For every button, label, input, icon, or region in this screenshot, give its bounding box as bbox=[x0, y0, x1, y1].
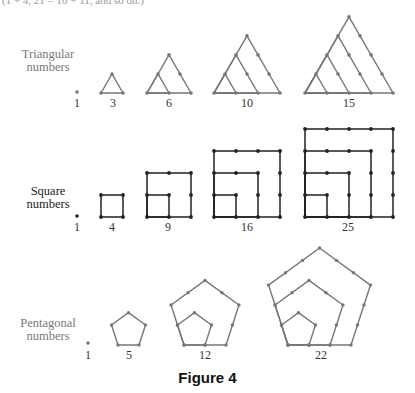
triangular-figure-15-dot bbox=[325, 91, 329, 95]
pentagonal-label-line2: numbers bbox=[14, 330, 82, 343]
pentagonal-figure-12-dot bbox=[231, 323, 234, 326]
square-figure-25-dot bbox=[369, 149, 373, 153]
pentagonal-figure-5-edge bbox=[112, 313, 129, 325]
square-figure-9-dot bbox=[145, 193, 149, 197]
square-figure-16-dot bbox=[212, 193, 216, 197]
pentagonal-figure-12-dot bbox=[203, 279, 206, 282]
square-label-line2: numbers bbox=[18, 198, 78, 211]
pentagonal-figure-22-edge bbox=[299, 313, 316, 325]
pentagonal-figure-22-dot bbox=[314, 323, 317, 326]
pentagonal-label: Pentagonal numbers bbox=[14, 317, 82, 343]
triangular-figure-15-dot bbox=[314, 72, 318, 76]
pentagonal-figure-22-edge bbox=[269, 248, 320, 285]
triangular-figure-10-edge bbox=[247, 36, 280, 93]
triangular-figure-10-dot bbox=[256, 53, 260, 57]
pentagonal-figure-22-dot bbox=[362, 303, 365, 306]
square-figure-25-dot bbox=[347, 171, 351, 175]
pentagonal-figure-22-dot bbox=[301, 259, 304, 262]
pentagonal-figure-5-edge bbox=[139, 325, 145, 345]
triangular-figure-15-dot bbox=[347, 15, 351, 19]
pentagonal-figure-22-edge bbox=[269, 285, 288, 345]
pentagonal-figure-22-dot bbox=[328, 343, 331, 346]
square-figure-9-dot bbox=[167, 193, 171, 197]
triangular-value-1: 1 bbox=[74, 96, 80, 111]
square-figure-25-dot bbox=[325, 149, 329, 153]
square-figure-25-dot bbox=[391, 193, 395, 197]
square-figure-25-dot bbox=[347, 127, 351, 131]
square-label: Square numbers bbox=[18, 185, 78, 211]
triangular-figure-10-dot bbox=[256, 91, 260, 95]
pentagonal-figure-5-edge bbox=[129, 313, 146, 325]
pentagonal-figure-5-edge bbox=[112, 325, 118, 345]
triangular-figure-10-dot bbox=[234, 91, 238, 95]
triangular-figure-6-dot bbox=[167, 53, 171, 57]
triangular-figure-15-dot bbox=[303, 91, 307, 95]
pentagonal-figure-22-dot bbox=[273, 303, 276, 306]
triangular-figure-15-dot bbox=[369, 91, 373, 95]
triangular-figure-15-dot bbox=[369, 53, 373, 57]
triangular-figure-3-dot bbox=[110, 72, 114, 76]
pentagonal-figure-22-dot bbox=[369, 283, 372, 286]
square-figure-25-dot bbox=[347, 215, 351, 219]
square-figure-16-dot bbox=[234, 171, 238, 175]
triangular-value-6: 6 bbox=[166, 96, 172, 111]
triangular-figure-15-dot bbox=[325, 53, 329, 57]
square-figure-25-dot bbox=[369, 127, 373, 131]
triangular-figure-10-dot bbox=[223, 72, 227, 76]
pentagonal-value-12: 12 bbox=[199, 348, 211, 363]
square-figure-16-dot bbox=[256, 193, 260, 197]
pentagonal-figure-22-dot bbox=[307, 279, 310, 282]
square-value-25: 25 bbox=[342, 220, 354, 235]
pentagonal-figure-22-dot bbox=[280, 323, 283, 326]
pentagonal-figure-5-dot bbox=[144, 323, 147, 326]
square-figure-25-dot bbox=[325, 127, 329, 131]
pentagonal-figure-22-dot bbox=[352, 271, 355, 274]
triangular-figure-15-dot bbox=[336, 72, 340, 76]
pentagonal-figure-5-dot bbox=[127, 311, 130, 314]
pentagonal-figure-22-dot bbox=[324, 291, 327, 294]
triangular-figure-3-edge bbox=[112, 74, 123, 93]
triangular-figure-15-dot bbox=[391, 91, 395, 95]
square-figure-4-dot bbox=[121, 215, 125, 219]
triangular-figure-10-dot bbox=[267, 72, 271, 76]
square-figure-16-dot bbox=[234, 149, 238, 153]
square-figure-25-dot bbox=[303, 127, 307, 131]
square-figure-25-dot bbox=[347, 193, 351, 197]
square-figure-9-dot bbox=[189, 193, 193, 197]
square-figure-25-dot bbox=[347, 149, 351, 153]
pentagonal-figure-12-dot bbox=[210, 323, 213, 326]
pentagonal-figure-22-dot bbox=[341, 303, 344, 306]
square-figure-25-dot bbox=[303, 193, 307, 197]
triangular-value-15: 15 bbox=[343, 96, 355, 111]
figure-caption: Figure 4 bbox=[0, 369, 415, 386]
square-figure-25-dot bbox=[325, 193, 329, 197]
pentagonal-figure-12-edge bbox=[195, 313, 212, 325]
square-figure-25-dot bbox=[303, 149, 307, 153]
square-figure-4-dot bbox=[99, 193, 103, 197]
pentagonal-figure-22-dot bbox=[356, 323, 359, 326]
pentagonal-value-5: 5 bbox=[126, 348, 132, 363]
triangular-figure-15-dot bbox=[358, 72, 362, 76]
pentagonal-figure-12-dot bbox=[186, 291, 189, 294]
triangular-figure-15-dot bbox=[336, 34, 340, 38]
square-figure-25-dot bbox=[391, 127, 395, 131]
triangular-figure-10-dot bbox=[245, 34, 249, 38]
pentagonal-figure-22-dot bbox=[284, 271, 287, 274]
pentagonal-figure-12-dot bbox=[203, 343, 206, 346]
square-figure-1-dot bbox=[75, 214, 79, 218]
triangular-label-line2: numbers bbox=[14, 61, 82, 74]
square-figure-16-dot bbox=[278, 193, 282, 197]
pentagonal-figure-12-edge bbox=[178, 313, 195, 325]
square-figure-16-dot bbox=[212, 149, 216, 153]
square-figure-16-dot bbox=[256, 149, 260, 153]
pentagonal-figure-22-dot bbox=[297, 311, 300, 314]
pentagonal-figure-22-dot bbox=[290, 291, 293, 294]
triangular-figure-15-edge bbox=[316, 74, 327, 93]
pentagonal-figure-22-dot bbox=[335, 323, 338, 326]
pentagonal-figure-12-dot bbox=[193, 311, 196, 314]
triangular-figure-6-dot bbox=[145, 91, 149, 95]
triangular-figure-6-dot bbox=[178, 72, 182, 76]
pentagonal-figure-22-dot bbox=[335, 259, 338, 262]
pentagonal-figure-5-dot bbox=[137, 343, 140, 346]
square-figure-16-dot bbox=[278, 215, 282, 219]
